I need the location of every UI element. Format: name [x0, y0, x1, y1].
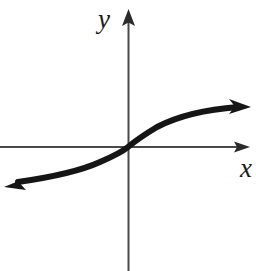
graph-figure: y x	[0, 0, 256, 271]
y-axis-label: y	[98, 6, 110, 33]
coordinate-plane-svg	[0, 0, 256, 271]
x-axis-label: x	[240, 155, 252, 182]
